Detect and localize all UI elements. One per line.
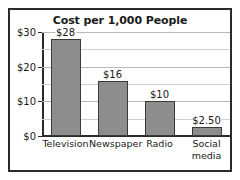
x-axis-category-line: Television (42, 138, 89, 150)
plot-area: $0$10$20$30 $28$16$10$2.50 (42, 32, 230, 136)
y-axis-tick-mark (38, 32, 42, 33)
y-axis-tick-label: $20 (17, 61, 36, 72)
y-axis-tick-label: $30 (17, 27, 36, 38)
bar: $10 (145, 101, 175, 136)
y-axis-tick-mark (38, 136, 42, 137)
x-axis-category-line: media (183, 150, 230, 162)
y-axis-tick-mark (38, 67, 42, 68)
bar-value-label: $16 (102, 69, 123, 80)
bar-value-label: $2.50 (191, 115, 222, 126)
bar-value-label: $28 (55, 27, 76, 38)
bar: $2.50 (192, 127, 222, 136)
bar-value-label: $10 (149, 89, 170, 100)
x-axis-category-label: Socialmedia (183, 138, 230, 161)
x-axis-category-line: Social (183, 138, 230, 150)
y-axis-tick-label: $0 (23, 131, 36, 142)
chart-figure: Cost per 1,000 People $0$10$20$30 $28$16… (8, 8, 232, 172)
y-axis-tick-mark (38, 101, 42, 102)
x-axis-category-label: Newspaper (89, 138, 136, 150)
bar: $28 (51, 39, 81, 136)
x-axis-labels: TelevisionNewspaperRadioSocialmedia (42, 138, 230, 172)
x-axis-category-label: Radio (136, 138, 183, 150)
x-axis-category-label: Television (42, 138, 89, 150)
bar: $16 (98, 81, 128, 136)
chart-title: Cost per 1,000 People (10, 14, 230, 27)
y-axis-tick-label: $10 (17, 96, 36, 107)
x-axis-category-line: Newspaper (89, 138, 136, 150)
x-axis-category-line: Radio (136, 138, 183, 150)
